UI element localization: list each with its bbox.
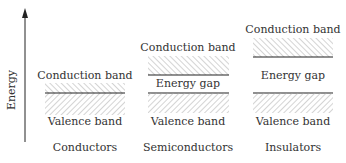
semiconductors-conduction-label: Conduction band xyxy=(140,42,235,54)
semiconductors-title: Semiconductors xyxy=(143,142,233,154)
energy-axis-label: Energy xyxy=(6,70,18,110)
conductors-conduction-label: Conduction band xyxy=(37,70,132,82)
conductors-title: Conductors xyxy=(53,142,117,154)
conductors-bands xyxy=(45,83,125,115)
insulators-title: Insulators xyxy=(265,142,321,154)
energy-axis-arrow xyxy=(22,8,28,142)
insulators-conduction-label: Conduction band xyxy=(245,24,340,36)
conductors-valence-label: Valence band xyxy=(48,116,123,128)
semiconductors-valence-label: Valence band xyxy=(151,116,226,128)
semiconductors-gap-label: Energy gap xyxy=(156,78,220,90)
insulators-gap-label: Energy gap xyxy=(261,70,325,82)
insulators-valence-label: Valence band xyxy=(256,116,331,128)
